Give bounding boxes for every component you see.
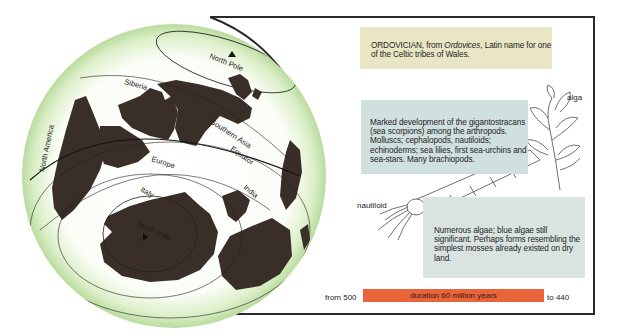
timeline-from-label: from 500 (325, 293, 357, 302)
ordovician-infographic: North Pole Siberia Southern Asia Equator… (0, 0, 626, 336)
nautiloid-label: nautiloid (357, 201, 387, 210)
timeline-duration-bar: duration 60 million years (363, 289, 544, 302)
timeline-to-label: to 440 (547, 293, 569, 302)
flora-description-box: Numerous algae; blue algae still signifi… (423, 197, 585, 278)
flora-text: Numerous algae; blue algae still signifi… (434, 226, 580, 263)
alga-label: alga (567, 93, 582, 102)
period-title-box: ORDOVICIAN, from Ordovices, Latin name f… (360, 27, 552, 69)
timeline-duration-label: duration 60 million years (410, 291, 497, 300)
etymology-term: Ordovices (444, 41, 480, 50)
fauna-text: Marked development of the gigantostracan… (370, 118, 527, 164)
period-name-prefix: ORDOVICIAN, from (371, 41, 444, 50)
fauna-description-box: Marked development of the gigantostracan… (361, 100, 528, 174)
